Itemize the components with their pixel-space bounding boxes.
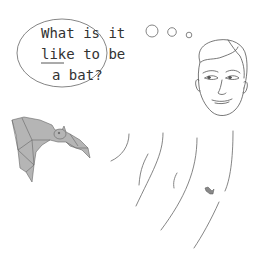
bat	[12, 117, 90, 182]
right-eye	[226, 76, 239, 80]
left-pupil	[208, 76, 211, 79]
mouth	[212, 99, 232, 101]
bat-eye	[58, 132, 60, 134]
wave-arc-3	[136, 133, 163, 206]
wave-arc-7	[194, 202, 219, 248]
left-eye	[205, 76, 218, 80]
thought-circle-large	[146, 25, 158, 37]
thought-bubbles	[146, 25, 192, 38]
wave-arc-5	[161, 138, 197, 230]
bubble-line-2: like to be	[41, 46, 125, 62]
thought-circle-medium	[168, 28, 177, 37]
moth-icon	[205, 187, 214, 194]
illustration: What is it like to be a bat?	[0, 0, 259, 260]
hairline	[201, 47, 238, 62]
left-eyebrow	[203, 71, 218, 73]
bubble-line-3: a bat?	[52, 67, 103, 83]
underlined-word: like	[41, 46, 75, 62]
wave-arc-2	[139, 154, 148, 185]
nose	[218, 80, 226, 95]
thought-circle-small	[186, 32, 192, 38]
bubble-line-2-rest: to be	[75, 46, 126, 62]
right-eyebrow	[226, 70, 240, 73]
hair-part	[228, 40, 244, 78]
lower-lip	[215, 102, 229, 104]
speech-bubble: What is it like to be a bat?	[17, 19, 125, 87]
echolocation-waves	[111, 131, 233, 248]
right-pupil	[229, 76, 232, 79]
wave-arc-4	[174, 173, 177, 188]
bat-body-wings	[12, 117, 90, 182]
bubble-line-1: What is it	[41, 25, 125, 41]
bat-head	[54, 129, 66, 139]
hair-outline	[199, 40, 247, 88]
wave-arc-6	[225, 131, 233, 191]
moth	[205, 187, 214, 194]
human-face	[196, 40, 248, 116]
wave-arc-1	[111, 134, 129, 161]
face-outline	[198, 62, 244, 116]
